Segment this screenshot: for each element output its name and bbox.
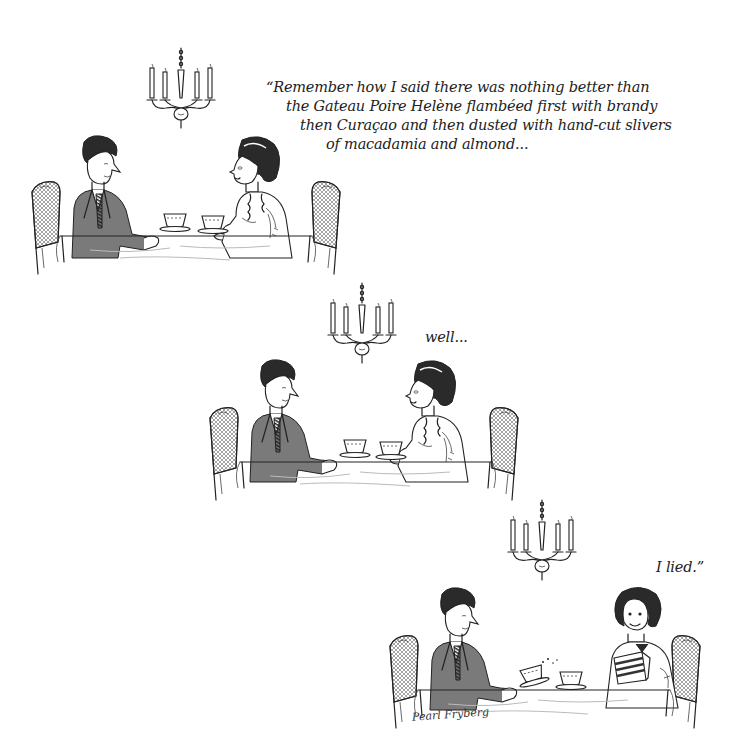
comic-panel-3: I lied.” Pearl Fryberg (0, 0, 736, 748)
cake-slice-icon (612, 650, 652, 686)
chandelier-icon (506, 500, 586, 590)
speech-caption-3: I lied.” (656, 558, 704, 577)
caption-line: I lied.” (656, 558, 704, 577)
tea-splash (540, 656, 560, 668)
teacup-icon (560, 672, 594, 692)
